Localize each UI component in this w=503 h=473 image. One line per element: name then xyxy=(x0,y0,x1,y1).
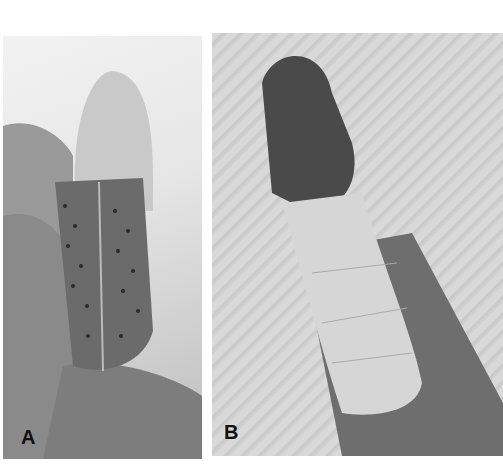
panel-b-label: B xyxy=(224,421,238,444)
panel-b-photo: B xyxy=(212,33,503,456)
splinted-finger-illustration xyxy=(3,36,202,459)
panel-a-photo: A xyxy=(3,36,202,459)
panel-a-label: A xyxy=(21,426,35,449)
bandaged-finger-illustration xyxy=(212,33,503,456)
